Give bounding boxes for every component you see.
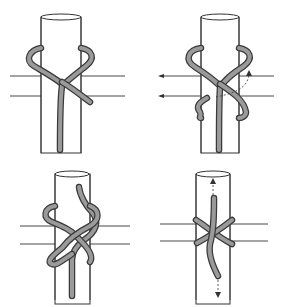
panel-step-2	[158, 14, 274, 153]
arrow-left-icon	[158, 74, 164, 78]
panel-step-1	[10, 14, 125, 153]
arrowhead-icon	[246, 70, 252, 76]
arrow-left-icon	[158, 94, 164, 98]
panel-step-3	[20, 171, 130, 304]
knot-diagram	[0, 0, 283, 307]
panel-step-4	[160, 171, 268, 304]
